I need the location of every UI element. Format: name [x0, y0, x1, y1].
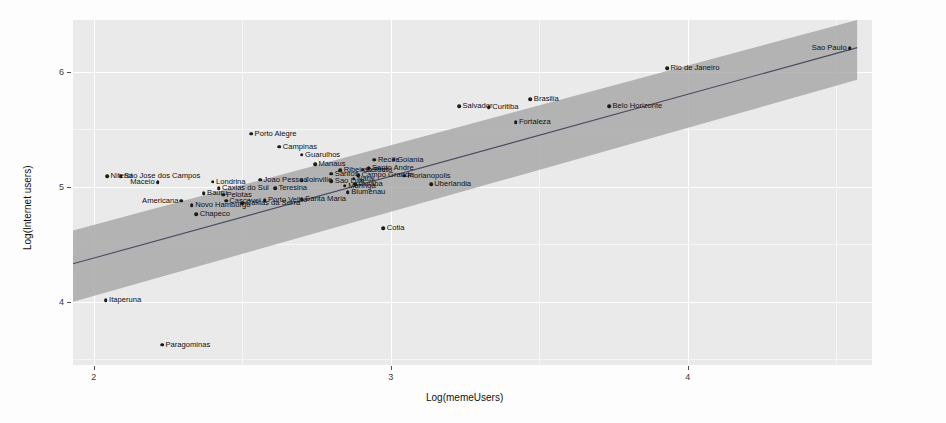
- data-point: [273, 187, 277, 191]
- data-point: [190, 203, 194, 207]
- point-label: Americana: [142, 197, 178, 205]
- point-label: Guarulhos: [305, 151, 340, 159]
- x-tick-mark: [391, 366, 392, 370]
- y-tick-mark: [67, 72, 71, 73]
- point-label: Itaperuna: [109, 296, 141, 304]
- point-label: Salvador: [463, 102, 493, 110]
- point-label: Porto Alegre: [255, 130, 297, 138]
- data-point: [300, 179, 304, 183]
- regression-line: [73, 48, 857, 264]
- data-point: [353, 183, 357, 187]
- data-point: [361, 168, 365, 172]
- data-point: [156, 180, 160, 184]
- data-point: [848, 46, 852, 50]
- y-tick-mark: [67, 302, 71, 303]
- point-label: Santa Maria: [305, 196, 346, 204]
- data-point: [180, 199, 184, 203]
- point-label: Manaus: [318, 161, 345, 169]
- data-point: [278, 145, 282, 149]
- point-label: Blumenau: [351, 188, 385, 196]
- x-tick-label: 2: [91, 372, 96, 382]
- data-point: [300, 153, 304, 157]
- data-point: [665, 66, 669, 70]
- point-label: Curitiba: [492, 104, 518, 112]
- point-label: Novo Hamburgo: [195, 201, 250, 209]
- y-tick-label: 5: [46, 182, 64, 192]
- data-point: [211, 180, 215, 184]
- data-point: [529, 98, 533, 102]
- data-point: [160, 343, 164, 347]
- point-label: Fortaleza: [519, 119, 551, 127]
- data-point: [249, 132, 253, 136]
- y-tick-label: 6: [46, 67, 64, 77]
- point-label: Rio de Janeiro: [670, 64, 719, 72]
- data-point: [607, 104, 611, 108]
- point-label: Paragominas: [166, 341, 211, 349]
- data-point: [104, 298, 108, 302]
- y-tick-mark: [67, 187, 71, 188]
- y-tick-label: 4: [46, 297, 64, 307]
- point-label: Teresina: [278, 185, 307, 193]
- point-label: Sao Paulo: [812, 44, 847, 52]
- point-label: Cotia: [387, 224, 405, 232]
- x-axis-title: Log(memeUsers): [426, 392, 503, 403]
- data-point: [373, 158, 377, 162]
- data-point: [202, 191, 206, 195]
- data-point: [300, 198, 304, 202]
- y-axis-title: Log(Internet users): [22, 166, 33, 251]
- regression-layer: [73, 20, 872, 365]
- chart-root: Sao PauloRio de JaneiroBelo HorizonteBra…: [0, 0, 946, 423]
- data-point: [457, 104, 461, 108]
- data-point: [346, 190, 350, 194]
- x-tick-mark: [688, 366, 689, 370]
- point-label: Belo Horizonte: [613, 102, 663, 110]
- point-label: Maceio: [130, 178, 154, 186]
- data-point: [313, 163, 317, 167]
- data-point: [402, 174, 406, 178]
- data-point: [330, 179, 334, 183]
- confidence-ribbon: [73, 20, 857, 302]
- x-tick-label: 4: [685, 372, 690, 382]
- point-label: Goiania: [397, 156, 423, 164]
- x-tick-mark: [94, 366, 95, 370]
- data-point: [194, 213, 198, 217]
- data-point: [392, 158, 396, 162]
- data-point: [221, 193, 225, 197]
- plot-panel: Sao PauloRio de JaneiroBelo HorizonteBra…: [73, 20, 872, 365]
- x-tick-label: 3: [388, 372, 393, 382]
- point-label: Recife: [378, 156, 400, 164]
- data-point: [258, 178, 262, 182]
- point-label: Chapeco: [200, 211, 230, 219]
- point-label: Caxias da Serra: [246, 200, 300, 208]
- data-point: [382, 226, 386, 230]
- data-point: [514, 121, 518, 125]
- data-point: [429, 183, 433, 187]
- data-point: [343, 184, 347, 188]
- point-label: Florianopolis: [408, 172, 451, 180]
- point-label: Belem: [366, 166, 388, 174]
- data-point: [119, 175, 123, 179]
- data-point: [105, 175, 109, 179]
- point-label: Brasilia: [534, 96, 559, 104]
- point-label: Joinville: [305, 177, 332, 185]
- point-label: Uberlandia: [434, 181, 471, 189]
